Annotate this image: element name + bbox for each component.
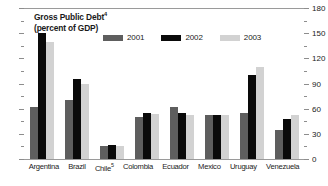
bar-groups [24, 8, 304, 159]
bar-brazil-2002[interactable] [73, 79, 81, 159]
x-axis-label-mexico: Mexico [198, 162, 221, 171]
bar-group-ecuador [170, 8, 194, 159]
x-axis-label-text: Mexico [198, 162, 221, 171]
y-tick-major-30 [304, 134, 309, 135]
y-tick-label-120: 120 [312, 54, 325, 63]
bar-venezuela-2002[interactable] [283, 119, 291, 159]
chart-plot-area [24, 8, 304, 159]
y-tick-label-150: 150 [312, 29, 325, 38]
y-tick-major-180 [304, 8, 309, 9]
y-tick-major-60 [19, 109, 24, 110]
x-axis-label-brazil: Brazil [68, 162, 86, 171]
bar-group-mexico [205, 8, 229, 159]
x-axis-label-uruguay: Uruguay [230, 162, 257, 171]
bar-colombia-2002[interactable] [143, 113, 151, 159]
y-tick-label-30: 30 [312, 129, 321, 138]
y-tick-major-150 [304, 33, 309, 34]
y-tick-minor-15 [21, 146, 24, 147]
y-tick-minor-15 [304, 146, 307, 147]
y-tick-minor-75 [304, 96, 307, 97]
bar-ecuador-2003[interactable] [186, 115, 194, 159]
y-tick-major-180 [19, 8, 24, 9]
bar-uruguay-2002[interactable] [248, 75, 256, 159]
bar-group-colombia [135, 8, 159, 159]
x-axis-label-text: Venezuela [266, 162, 299, 171]
y-tick-minor-165 [304, 21, 307, 22]
y-tick-label-180: 180 [312, 4, 325, 13]
y-tick-minor-135 [21, 46, 24, 47]
chart-container: Gross Public Debt4 (percent of GDP) 2001… [0, 0, 328, 186]
bar-chile-2001[interactable] [100, 146, 108, 159]
bar-group-argentina [30, 8, 54, 159]
bar-ecuador-2002[interactable] [178, 113, 186, 159]
y-tick-major-0 [19, 159, 24, 160]
y-tick-minor-45 [304, 121, 307, 122]
bar-colombia-2001[interactable] [135, 117, 143, 159]
bar-group-brazil [65, 8, 89, 159]
x-axis-label-text: Colombia [123, 162, 153, 171]
y-tick-major-60 [304, 109, 309, 110]
bar-colombia-2003[interactable] [151, 114, 159, 159]
y-tick-label-0: 0 [312, 155, 316, 164]
bar-chile-2003[interactable] [116, 146, 124, 159]
x-axis-label-text: Brazil [68, 162, 86, 171]
x-axis-label-venezuela: Venezuela [266, 162, 299, 171]
y-tick-minor-105 [21, 71, 24, 72]
y-tick-minor-75 [21, 96, 24, 97]
x-axis-label-chile: Chile5 [95, 162, 114, 173]
bar-uruguay-2001[interactable] [240, 113, 248, 159]
x-axis-label-text: Uruguay [230, 162, 257, 171]
x-axis-label-footnote: 5 [111, 162, 114, 168]
bar-mexico-2001[interactable] [205, 115, 213, 159]
y-tick-minor-165 [21, 21, 24, 22]
bar-venezuela-2003[interactable] [291, 115, 299, 159]
bar-ecuador-2001[interactable] [170, 107, 178, 159]
y-tick-label-90: 90 [312, 79, 321, 88]
bar-group-chile [100, 8, 124, 159]
bar-venezuela-2001[interactable] [275, 130, 283, 159]
y-tick-major-90 [304, 84, 309, 85]
y-tick-label-60: 60 [312, 104, 321, 113]
y-tick-minor-45 [21, 121, 24, 122]
bar-argentina-2002[interactable] [38, 33, 46, 159]
bar-brazil-2003[interactable] [81, 84, 89, 160]
bar-group-venezuela [275, 8, 299, 159]
y-tick-minor-135 [304, 46, 307, 47]
y-tick-major-90 [19, 84, 24, 85]
bar-chile-2002[interactable] [108, 145, 116, 159]
chart-baseline-axis [24, 159, 304, 160]
y-tick-major-150 [19, 33, 24, 34]
y-tick-minor-105 [304, 71, 307, 72]
bar-argentina-2003[interactable] [46, 42, 54, 159]
x-axis-label-ecuador: Ecuador [162, 162, 189, 171]
bar-group-uruguay [240, 8, 264, 159]
x-axis-label-text: Argentina [29, 162, 59, 171]
x-axis-label-text: Chile [95, 164, 111, 173]
y-tick-major-30 [19, 134, 24, 135]
y-tick-major-120 [19, 58, 24, 59]
bar-argentina-2001[interactable] [30, 107, 38, 159]
x-axis-category-labels: ArgentinaBrazilChile5ColombiaEcuadorMexi… [24, 162, 304, 176]
y-tick-major-0 [304, 159, 309, 160]
bar-uruguay-2003[interactable] [256, 67, 264, 159]
y-tick-major-120 [304, 58, 309, 59]
x-axis-label-colombia: Colombia [123, 162, 153, 171]
x-axis-label-argentina: Argentina [29, 162, 59, 171]
bar-mexico-2002[interactable] [213, 115, 221, 159]
bar-brazil-2001[interactable] [65, 100, 73, 159]
x-axis-label-text: Ecuador [162, 162, 189, 171]
bar-mexico-2003[interactable] [221, 115, 229, 159]
